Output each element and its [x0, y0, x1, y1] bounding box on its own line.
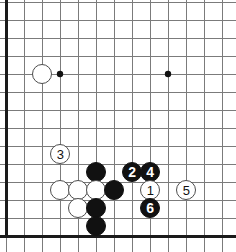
stone-move-number: 6 — [146, 201, 153, 215]
stone-move-number: 5 — [183, 184, 190, 197]
white-stone-left-a[interactable] — [50, 180, 70, 200]
black-stone-lower-a[interactable] — [86, 198, 106, 218]
black-stone-lower-b[interactable] — [86, 216, 106, 236]
black-stone-move-4[interactable]: 4 — [140, 162, 160, 182]
white-stone-upper-left[interactable] — [32, 64, 52, 84]
black-stone-center-right[interactable] — [104, 180, 124, 200]
stone-move-number: 3 — [57, 148, 64, 161]
stone-layer: 324156 — [0, 0, 236, 252]
go-board-diagram: 324156 — [0, 0, 236, 252]
black-stone-move-2[interactable]: 2 — [122, 162, 142, 182]
white-stone-move-3[interactable]: 3 — [50, 144, 70, 164]
white-stone-left-b[interactable] — [68, 180, 88, 200]
black-stone-center-top[interactable] — [86, 162, 106, 182]
stone-move-number: 1 — [147, 184, 154, 197]
white-stone-below[interactable] — [68, 198, 88, 218]
stone-move-number: 4 — [146, 165, 153, 179]
white-stone-left-c[interactable] — [86, 180, 106, 200]
stone-move-number: 2 — [128, 165, 135, 179]
white-stone-move-5[interactable]: 5 — [176, 180, 196, 200]
white-stone-move-1[interactable]: 1 — [140, 180, 160, 200]
black-stone-move-6[interactable]: 6 — [140, 198, 160, 218]
